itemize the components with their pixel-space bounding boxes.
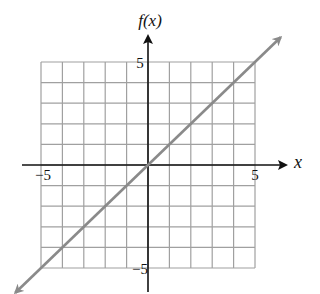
axes <box>22 36 286 292</box>
y-axis-title: f(x) <box>138 11 162 30</box>
function-graph: f(x)x5−5−55 <box>0 0 320 294</box>
x-axis-title: x <box>293 152 302 172</box>
x-tick-label: 5 <box>251 167 259 183</box>
x-tick-label: −5 <box>35 167 51 183</box>
y-tick-label: 5 <box>136 55 144 71</box>
y-tick-label: −5 <box>132 261 148 277</box>
